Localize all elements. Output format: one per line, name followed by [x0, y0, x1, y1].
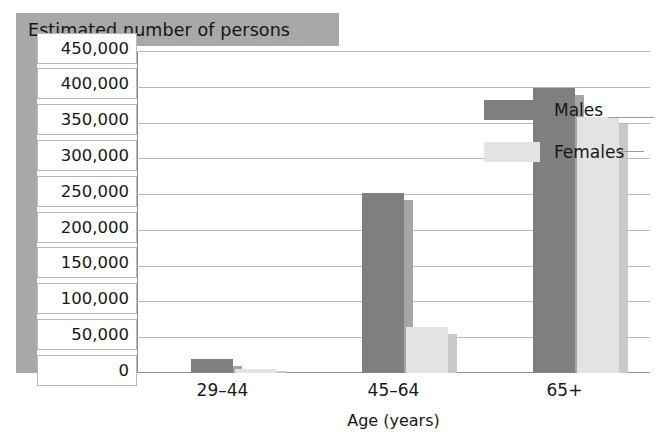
- bar-front-face: [191, 359, 233, 373]
- legend-label-males: Males: [554, 100, 603, 120]
- left-decorative-band: [16, 13, 37, 373]
- legend-label-females: Females: [554, 142, 624, 162]
- bar-front-face: [235, 369, 277, 373]
- bar-males-29–44: [191, 359, 233, 373]
- y-tick-label: 350,000: [37, 104, 137, 135]
- y-axis-line: [137, 51, 138, 373]
- bar-males-45–64: [362, 193, 404, 373]
- y-tick-label: 300,000: [37, 140, 137, 171]
- bar-front-face: [362, 193, 404, 373]
- bar-side-face: [448, 334, 457, 374]
- legend-swatch-males-icon: [484, 100, 540, 120]
- bar-females-45–64: [406, 327, 448, 374]
- y-axis-tick-labels: 050,000100,000150,000200,000250,000300,0…: [37, 51, 137, 373]
- bar-front-face: [406, 327, 448, 374]
- x-axis-title: Age (years): [137, 411, 650, 430]
- legend-leader-line: [608, 117, 654, 118]
- bar-females-29–44: [235, 369, 277, 373]
- bar-side-face: [277, 371, 286, 373]
- chart-legend: Males Females: [484, 98, 664, 170]
- legend-swatch-females-icon: [484, 142, 540, 162]
- legend-leader-line: [616, 151, 644, 152]
- y-tick-label: 200,000: [37, 212, 137, 243]
- y-tick-label: 250,000: [37, 176, 137, 207]
- y-tick-label: 50,000: [37, 319, 137, 350]
- legend-item-females: Females: [484, 140, 624, 164]
- y-tick-label: 0: [37, 355, 137, 386]
- x-axis-tick-labels: 29–4445–6465+: [137, 380, 650, 406]
- x-tick-label: 29–44: [137, 380, 308, 400]
- x-tick-label: 45–64: [308, 380, 479, 400]
- y-tick-label: 100,000: [37, 283, 137, 314]
- gridline: [137, 51, 650, 52]
- x-tick-label: 65+: [479, 380, 650, 400]
- legend-item-males: Males: [484, 98, 603, 122]
- chart-figure: Estimated number of persons 050,000100,0…: [0, 0, 669, 446]
- y-tick-label: 150,000: [37, 247, 137, 278]
- y-tick-label: 450,000: [37, 33, 137, 64]
- y-tick-label: 400,000: [37, 68, 137, 99]
